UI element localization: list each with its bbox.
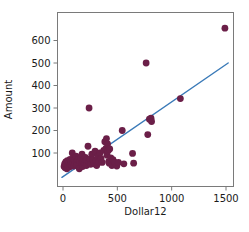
data-point	[222, 25, 229, 32]
y-axis: 100200300400500600	[31, 35, 57, 159]
data-point	[85, 143, 92, 150]
data-point	[143, 60, 150, 67]
data-point	[119, 127, 126, 134]
x-axis: 050010001500	[60, 187, 239, 204]
plot-canvas: 100200300400500600 050010001500 Dollar12…	[0, 0, 249, 232]
data-point	[120, 160, 127, 167]
x-tick-label: 500	[108, 193, 127, 204]
data-point	[177, 95, 184, 102]
x-tick-label: 1000	[159, 193, 184, 204]
x-axis-title: Dollar12	[124, 206, 166, 217]
data-point	[99, 159, 106, 166]
y-axis-title: Amount	[3, 80, 14, 119]
y-tick-label: 300	[31, 103, 50, 114]
data-point	[86, 105, 93, 112]
y-tick-label: 100	[31, 148, 50, 159]
data-point	[144, 131, 151, 138]
x-tick-label: 0	[60, 193, 66, 204]
y-tick-label: 500	[31, 58, 50, 69]
data-points	[61, 25, 229, 172]
scatter-chart: 100200300400500600 050010001500 Dollar12…	[0, 0, 249, 232]
data-point	[130, 160, 137, 167]
data-point	[129, 150, 136, 157]
data-point	[148, 118, 155, 125]
data-point	[106, 146, 113, 153]
y-tick-label: 600	[31, 35, 50, 46]
y-tick-label: 200	[31, 125, 50, 136]
y-tick-label: 400	[31, 80, 50, 91]
x-tick-label: 1500	[213, 193, 238, 204]
